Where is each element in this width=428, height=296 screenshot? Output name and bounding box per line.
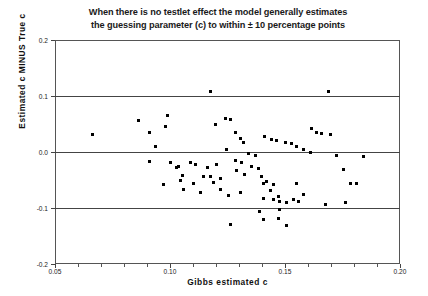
data-point bbox=[239, 137, 242, 140]
data-point bbox=[148, 160, 151, 163]
data-point bbox=[154, 145, 157, 148]
data-point bbox=[247, 152, 250, 155]
data-point bbox=[234, 131, 237, 134]
data-point bbox=[270, 138, 273, 141]
data-point bbox=[209, 90, 212, 93]
x-tick-minor bbox=[101, 264, 102, 267]
data-point bbox=[224, 117, 227, 120]
chart-title-line-1: When there is no testlet effect the mode… bbox=[38, 6, 398, 19]
chart-title: When there is no testlet effect the mode… bbox=[38, 6, 398, 32]
y-tick-label-1: 0.1 bbox=[22, 93, 48, 100]
data-point bbox=[215, 163, 218, 166]
y-tick-label-4: -0.2 bbox=[22, 261, 48, 268]
data-point bbox=[229, 223, 232, 226]
x-tick-minor bbox=[239, 264, 240, 267]
scatter-chart-figure: When there is no testlet effect the mode… bbox=[0, 0, 428, 296]
data-point bbox=[329, 133, 332, 136]
data-point bbox=[240, 161, 243, 164]
y-tick-mark-3 bbox=[51, 208, 55, 209]
data-point bbox=[234, 159, 237, 162]
data-point bbox=[310, 127, 313, 130]
data-point bbox=[327, 90, 330, 93]
data-point bbox=[194, 163, 197, 166]
data-point bbox=[239, 191, 242, 194]
x-tick-minor bbox=[78, 264, 79, 267]
x-tick-minor bbox=[331, 264, 332, 267]
x-tick-label-3: 0.20 bbox=[380, 268, 420, 275]
data-point bbox=[277, 217, 280, 220]
data-point bbox=[250, 165, 253, 168]
data-point bbox=[342, 168, 345, 171]
data-point bbox=[263, 135, 266, 138]
x-tick-label-0: 0.05 bbox=[35, 268, 75, 275]
data-point bbox=[258, 210, 261, 213]
data-point bbox=[235, 169, 238, 172]
data-point bbox=[219, 177, 222, 180]
data-point bbox=[260, 175, 263, 178]
x-tick-minor bbox=[193, 264, 194, 267]
x-tick-label-1: 0.10 bbox=[150, 268, 190, 275]
data-point bbox=[302, 193, 305, 196]
data-point bbox=[192, 182, 195, 185]
x-tick-minor bbox=[216, 264, 217, 267]
data-point bbox=[175, 166, 178, 169]
data-point bbox=[182, 188, 185, 191]
y-tick-label-3: -0.1 bbox=[22, 205, 48, 212]
data-point bbox=[277, 195, 280, 198]
data-point bbox=[335, 154, 338, 157]
y-tick-label-2: 0.0 bbox=[22, 149, 48, 156]
chart-title-line-2: the guessing parameter (c) to within ± 1… bbox=[38, 19, 398, 32]
x-tick-label-2: 0.15 bbox=[265, 268, 305, 275]
data-point bbox=[309, 151, 312, 154]
data-point bbox=[278, 208, 281, 211]
data-point bbox=[206, 166, 209, 169]
data-point bbox=[229, 118, 232, 121]
data-point bbox=[278, 200, 281, 203]
data-point bbox=[162, 183, 165, 186]
data-point bbox=[349, 182, 352, 185]
y-axis-label: Estimated c MINUS True c bbox=[17, 0, 27, 156]
data-point bbox=[344, 201, 347, 204]
data-point bbox=[269, 189, 272, 192]
data-point bbox=[242, 141, 245, 144]
data-point bbox=[189, 161, 192, 164]
x-tick-minor bbox=[354, 264, 355, 267]
data-point bbox=[355, 182, 358, 185]
data-point bbox=[262, 182, 265, 185]
data-point bbox=[254, 154, 257, 157]
data-point bbox=[212, 181, 215, 184]
data-point bbox=[209, 175, 212, 178]
data-point bbox=[320, 132, 323, 135]
y-tick-mark-2 bbox=[51, 152, 55, 153]
data-point bbox=[297, 200, 300, 203]
data-point bbox=[225, 148, 228, 151]
plot-area bbox=[55, 40, 400, 264]
data-point bbox=[243, 173, 246, 176]
data-point bbox=[219, 188, 222, 191]
data-point bbox=[292, 198, 295, 201]
data-point bbox=[272, 198, 275, 201]
data-point bbox=[284, 141, 287, 144]
data-point bbox=[164, 125, 167, 128]
data-point bbox=[257, 167, 260, 170]
data-point bbox=[302, 148, 305, 151]
data-point bbox=[362, 155, 365, 158]
data-point bbox=[285, 201, 288, 204]
data-point bbox=[199, 191, 202, 194]
x-tick-minor bbox=[377, 264, 378, 267]
data-point bbox=[137, 119, 140, 122]
data-point bbox=[91, 133, 94, 136]
data-point bbox=[275, 139, 278, 142]
data-point bbox=[169, 161, 172, 164]
y-tick-mark-1 bbox=[51, 96, 55, 97]
data-point bbox=[166, 114, 169, 117]
x-tick-minor bbox=[262, 264, 263, 267]
data-point bbox=[227, 194, 230, 197]
reference-line-1 bbox=[55, 152, 400, 153]
data-point bbox=[148, 131, 151, 134]
data-point bbox=[265, 180, 268, 183]
x-tick-minor bbox=[308, 264, 309, 267]
x-tick-minor bbox=[124, 264, 125, 267]
reference-line-0 bbox=[55, 96, 400, 97]
data-point bbox=[179, 179, 182, 182]
